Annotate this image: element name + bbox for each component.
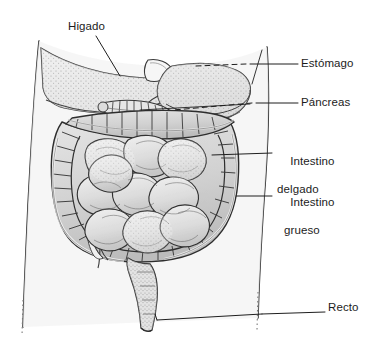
label-intestino-grueso-line1: Intestino [290,196,334,208]
label-recto: Recto [328,301,359,314]
label-intestino-grueso: Intestino grueso [277,181,335,265]
label-estomago: Estómago [301,57,354,70]
anatomy-figure: Higado Estómago Páncreas Intestino delga… [0,0,377,345]
small-intestine-organ [77,135,209,252]
label-pancreas: Páncreas [301,96,350,109]
label-intestino-delgado-line1: Intestino [290,155,334,167]
label-intestino-grueso-line2: grueso [277,223,335,237]
label-higado: Higado [68,20,105,33]
leader-recto [262,312,325,314]
